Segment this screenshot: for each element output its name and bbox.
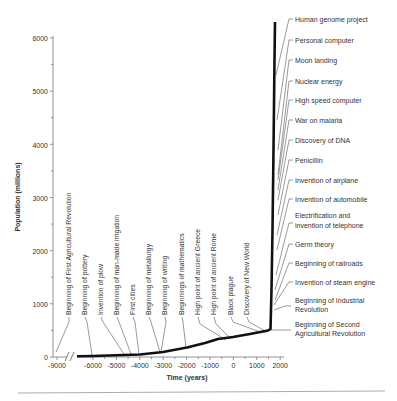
annotation-moon-landing: Moon landing (295, 57, 337, 65)
annotation-first-agricultural-revolution: Beginning of First Agricultural Revoluti… (65, 192, 73, 315)
annotation-plow: Invention of plow (97, 264, 105, 315)
bottom-divider (18, 391, 385, 393)
annotation-black-plague: Black plague (227, 276, 235, 315)
annotation-steam-engine: Invention of steam engine (295, 279, 375, 287)
annotation-industrial-revolution-1: Beginning of Industrial (295, 297, 365, 305)
y-tick-labels: 0 1000 2000 3000 4000 5000 6000 (32, 35, 48, 361)
axis-break-icon (65, 352, 74, 361)
y-tick-5000: 5000 (32, 88, 48, 95)
x-tick--3000: -3000 (154, 362, 172, 369)
annotation-second-agricultural-1: Beginning of Second (295, 321, 360, 329)
annotation-metallurgy: Beginning of metallurgy (145, 243, 153, 315)
annotation-war-on-malaria: War on malaria (295, 117, 342, 124)
annotation-airplane: Invention of airplane (295, 177, 358, 185)
x-tick-0: 0 (231, 362, 235, 369)
annotation-germ-theory: Germ theory (295, 241, 334, 249)
x-axis (53, 357, 284, 360)
annotation-ancient-rome: High point of ancient Rome (210, 233, 218, 315)
x-tick--1000: -1000 (201, 362, 219, 369)
annotation-writing: Beginning of writing (161, 255, 169, 315)
population-chart: 0 1000 2000 3000 4000 5000 6000 Populati… (0, 0, 397, 401)
x-tick--6000: -6000 (84, 362, 102, 369)
annotation-ancient-greece: High point of ancient Greece (194, 229, 202, 315)
left-annotations: Beginning of First Agricultural Revoluti… (65, 192, 251, 315)
x-tick--2000: -2000 (178, 362, 196, 369)
x-tick--5000: -5000 (107, 362, 125, 369)
annotation-penicillin: Penicillin (295, 157, 323, 164)
x-tick-2000: 2000 (272, 362, 288, 369)
annotation-second-agricultural-2: Agricultural Revolution (295, 330, 365, 338)
x-axis-label: Time (years) (166, 374, 207, 382)
annotation-industrial-revolution-2: Revolution (295, 306, 328, 313)
annotation-automobile: Invention of automobile (295, 196, 367, 203)
annotation-first-cities: First cities (129, 284, 136, 315)
x-tick-1000: 1000 (249, 362, 265, 369)
y-axis (50, 36, 53, 357)
right-annotations: Human genome project Personal computer M… (295, 16, 375, 338)
annotation-pottery: Beginning of pottery (81, 254, 89, 315)
annotation-personal-computer: Personal computer (295, 37, 354, 45)
y-tick-6000: 6000 (32, 35, 48, 42)
annotation-mathematics: Beginnings of mathematics (178, 233, 186, 315)
annotation-electrification-1: Electrification and (295, 212, 350, 219)
annotation-new-world: Discovery of New World (243, 242, 251, 315)
y-tick-2000: 2000 (32, 248, 48, 255)
annotation-dna: Discovery of DNA (295, 137, 351, 145)
annotation-electrification-2: invention of telephone (295, 222, 364, 230)
x-tick--4000: -4000 (131, 362, 149, 369)
annotation-nuclear-energy: Nuclear energy (295, 78, 343, 86)
y-tick-4000: 4000 (32, 142, 48, 149)
y-tick-3000: 3000 (32, 195, 48, 202)
y-tick-0: 0 (44, 354, 48, 361)
annotation-irrigation: Beginning of man-made irrigation (113, 215, 121, 315)
annotation-human-genome: Human genome project (295, 16, 368, 24)
x-tick--9000: -9000 (48, 362, 66, 369)
annotation-high-speed-computer: High speed computer (295, 97, 362, 105)
y-tick-1000: 1000 (32, 301, 48, 308)
y-axis-label: Population (millions) (14, 162, 22, 231)
x-tick-labels: -9000 -6000 -5000 -4000 -3000 -2000 -100… (48, 362, 288, 369)
annotation-railroads: Beginning of railroads (295, 260, 363, 268)
